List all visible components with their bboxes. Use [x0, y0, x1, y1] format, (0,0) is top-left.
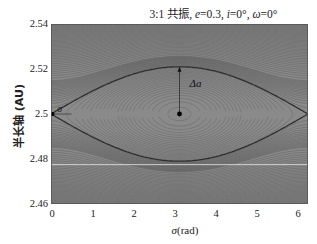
contour-plot: Δaσ: [51, 24, 308, 204]
x-tick: 4: [206, 208, 226, 219]
y-tick: 2.5: [20, 108, 48, 120]
x-tick: 2: [124, 208, 144, 219]
y-tick: 2.48: [20, 153, 48, 165]
delta-a-annotation: Δa: [189, 77, 202, 89]
y-tick: 2.52: [20, 63, 48, 75]
x-tick: 6: [288, 208, 308, 219]
chart-title: 3:1 共振, e=0.3, i=0°, ω=0°: [110, 5, 317, 21]
x-tick: 5: [247, 208, 267, 219]
y-tick: 2.54: [20, 18, 48, 30]
x-axis-label: σ(rad): [150, 224, 220, 236]
x-tick: 0: [42, 208, 62, 219]
x-tick: 3: [165, 208, 185, 219]
x-tick: 1: [83, 208, 103, 219]
plot-area: Δaσ: [51, 24, 308, 204]
